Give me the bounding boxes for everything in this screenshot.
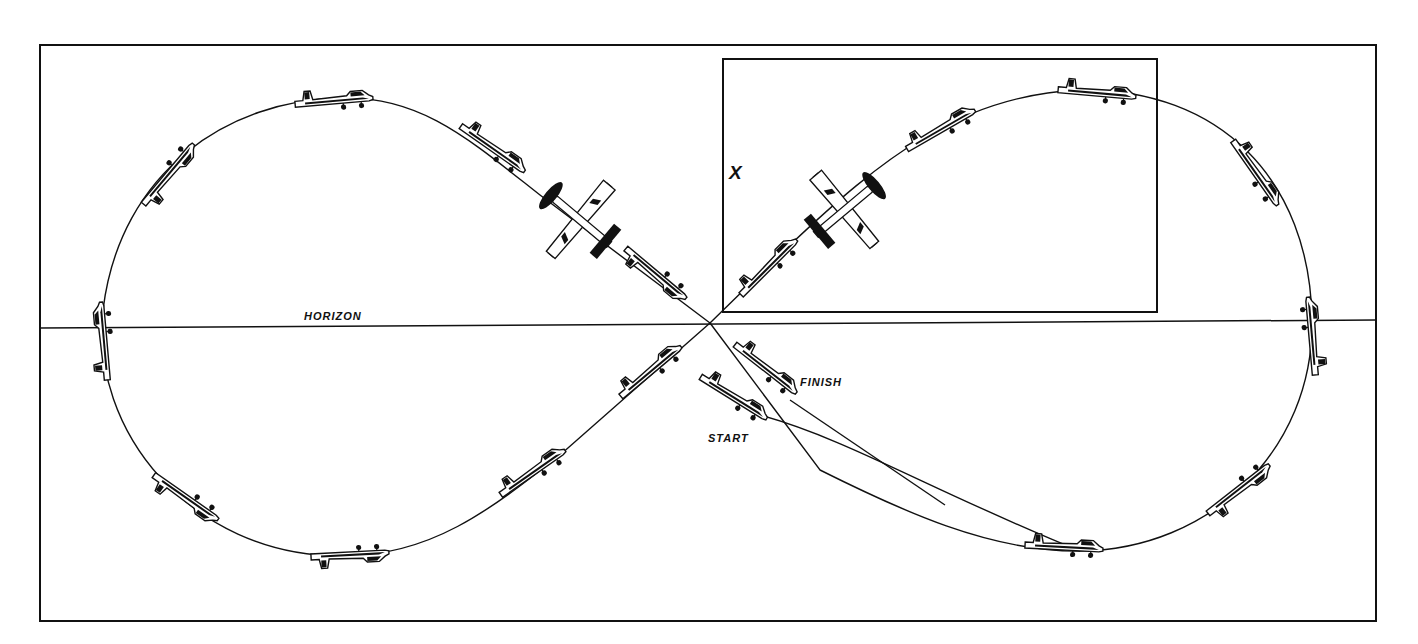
flight-path	[102, 90, 1312, 556]
start-label: START	[708, 432, 749, 444]
lazy-eight-diagram	[0, 0, 1418, 644]
top-view-airplanes	[517, 147, 908, 279]
detail-inset-frame	[723, 59, 1157, 312]
horizon-label: HORIZON	[304, 310, 362, 322]
reference-point-label: X	[729, 162, 742, 184]
finish-label: FINISH	[800, 376, 842, 388]
